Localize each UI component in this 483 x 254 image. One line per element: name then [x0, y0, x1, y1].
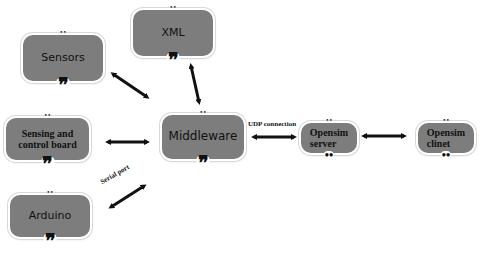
node-label: Sensing and control board: [18, 128, 76, 151]
node-label: Opensim clinet: [427, 127, 465, 150]
node-label: XML: [161, 27, 184, 40]
node-label-line1: Opensim: [427, 127, 465, 138]
node-label-line1: Sensing and: [22, 128, 73, 139]
dots-decoration-icon: ••: [442, 117, 449, 123]
node-label-line2: control board: [18, 139, 76, 150]
arrow-arduino-middleware: [111, 186, 144, 207]
quote-decoration-icon: ❞: [41, 157, 54, 169]
quote-decoration-icon: ••: [324, 151, 334, 159]
quote-decoration-icon: ❞: [167, 53, 180, 65]
node-label: Sensors: [41, 52, 84, 65]
arrow-sensors-middleware: [113, 74, 147, 97]
node-xml: •• XML ❞: [133, 10, 213, 56]
node-label-line1: Opensim: [310, 127, 348, 138]
quote-decoration-icon: ••: [441, 151, 451, 159]
dots-decoration-icon: ••: [46, 189, 53, 195]
quote-decoration-icon: ❞: [197, 156, 210, 168]
node-middleware: •• Middleware ❞: [162, 115, 244, 159]
dots-decoration-icon: ••: [59, 29, 66, 35]
node-sensors: •• Sensors ❞: [23, 35, 103, 81]
dots-decoration-icon: ••: [44, 112, 51, 118]
node-label: Middleware: [169, 130, 238, 144]
edge-label-udp: UDP connection: [248, 120, 296, 128]
node-arduino: •• Arduino ❞: [10, 195, 90, 237]
quote-decoration-icon: ❞: [44, 234, 57, 246]
node-label: Opensim server: [310, 127, 348, 150]
dots-decoration-icon: ••: [169, 4, 176, 10]
arrow-xml-middleware: [191, 66, 199, 102]
node-label: Arduino: [29, 210, 72, 223]
node-opensim-client: •• Opensim clinet ••: [418, 123, 474, 153]
dots-decoration-icon: ••: [325, 117, 332, 123]
dots-decoration-icon: ••: [199, 109, 206, 115]
node-sensing-control-board: •• Sensing and control board ❞: [6, 118, 89, 160]
quote-decoration-icon: ❞: [57, 78, 70, 90]
node-opensim-server: •• Opensim server ••: [301, 123, 357, 153]
